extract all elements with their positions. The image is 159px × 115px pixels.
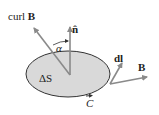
b-field-label: B: [138, 62, 145, 73]
normal-label: n̂: [72, 24, 78, 35]
area-label: ΔS: [39, 73, 52, 84]
dl-label: dl: [114, 53, 123, 64]
curve-direction-arrow: [86, 96, 92, 97]
curve-label: C: [86, 98, 93, 109]
curl-vector-symbol: B: [28, 10, 35, 22]
curl-text: curl: [8, 10, 28, 22]
dl-vector: [110, 63, 122, 84]
alpha-label: α: [56, 43, 62, 54]
b-field-vector: [110, 77, 147, 84]
curl-b-label: curl B: [8, 11, 35, 22]
